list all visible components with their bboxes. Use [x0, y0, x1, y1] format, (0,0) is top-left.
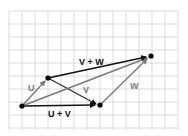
point-uv-tip [97, 102, 102, 107]
vector-diagram: U V W U + V V + W [0, 0, 188, 136]
label-u: U [28, 83, 35, 93]
label-u-plus-v: U + V [48, 109, 71, 119]
point-origin [19, 103, 24, 108]
vector-u-plus-v [22, 105, 95, 106]
grid [9, 11, 178, 130]
label-w: W [130, 81, 139, 91]
label-v-plus-w: V + W [79, 57, 104, 67]
point-uvw-tip [148, 53, 153, 58]
point-u-tip [45, 75, 50, 80]
label-v: V [83, 85, 89, 95]
